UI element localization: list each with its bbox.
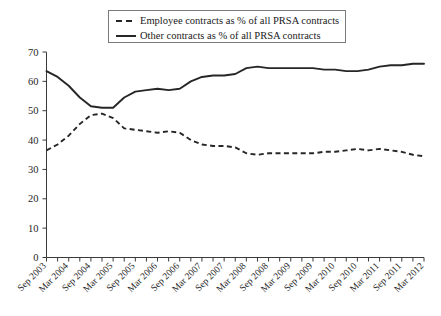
dashed-line-swatch-icon: [115, 16, 137, 26]
y-tick-label: 20: [28, 193, 39, 204]
y-tick-label: 60: [28, 76, 39, 87]
solid-line-swatch-icon: [115, 31, 137, 41]
legend-label-employee-contracts: Employee contracts as % of all PRSA cont…: [140, 15, 339, 27]
legend-item-other-contracts: Other contracts as % of all PRSA contrac…: [115, 29, 345, 43]
legend-label-other-contracts: Other contracts as % of all PRSA contrac…: [140, 30, 321, 42]
series-line-employee-contracts: [47, 114, 425, 157]
chart-plot-area: 010203040506070 Sep 2003Mar 2004Sep 2004…: [0, 0, 441, 316]
y-tick-label: 50: [28, 105, 39, 116]
y-tick-group: 010203040506070: [28, 47, 47, 264]
legend-item-employee-contracts: Employee contracts as % of all PRSA cont…: [115, 14, 345, 28]
x-tick-label-group: Sep 2003Mar 2004Sep 2004Mar 2005Sep 2005…: [16, 261, 426, 295]
chart-container: 010203040506070 Sep 2003Mar 2004Sep 2004…: [0, 0, 441, 316]
y-tick-label: 10: [28, 223, 39, 234]
x-axis: [47, 258, 425, 262]
series-group: [47, 64, 425, 156]
series-line-other-contracts: [47, 64, 425, 108]
y-tick-label: 30: [28, 164, 39, 175]
x-tick-group: [47, 258, 425, 262]
y-tick-label: 0: [33, 252, 38, 263]
y-axis: 010203040506070: [28, 47, 47, 264]
chart-legend: Employee contracts as % of all PRSA cont…: [108, 10, 346, 43]
y-tick-label: 70: [28, 47, 39, 58]
y-tick-label: 40: [28, 135, 39, 146]
